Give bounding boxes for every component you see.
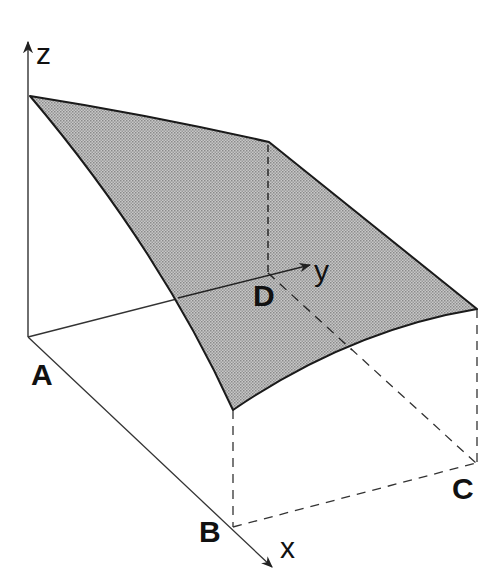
point-b-label: B [199, 515, 221, 548]
surface-diagram: z y x A B C D [0, 0, 502, 588]
point-a-label: A [31, 358, 53, 391]
point-c-label: C [452, 472, 474, 505]
point-d-label: D [253, 279, 275, 312]
z-axis-label: z [36, 37, 51, 70]
y-axis-label: y [314, 254, 329, 287]
x-axis-label: x [280, 531, 295, 564]
surface-patch [30, 96, 477, 410]
